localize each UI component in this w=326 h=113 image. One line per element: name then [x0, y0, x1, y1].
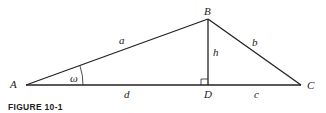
vertex-c-label: C: [307, 79, 315, 91]
right-angle-marker: [201, 79, 208, 85]
angle-omega-arc: [80, 66, 83, 85]
vertex-d-label: D: [203, 88, 212, 100]
angle-omega-label: ω: [70, 72, 78, 84]
vertex-b-label: B: [204, 5, 211, 17]
side-a-label: a: [119, 34, 125, 46]
vertex-a-label: A: [9, 78, 17, 90]
side-b-label: b: [252, 36, 258, 48]
side-b: [208, 19, 301, 85]
side-a: [26, 19, 208, 85]
triangle-diagram: A B C D a b h d c ω FIGURE 10-1: [0, 0, 326, 113]
side-h-label: h: [213, 46, 219, 58]
side-c-label: c: [254, 88, 259, 100]
side-d-label: d: [124, 88, 130, 100]
figure-caption: FIGURE 10-1: [8, 102, 63, 112]
